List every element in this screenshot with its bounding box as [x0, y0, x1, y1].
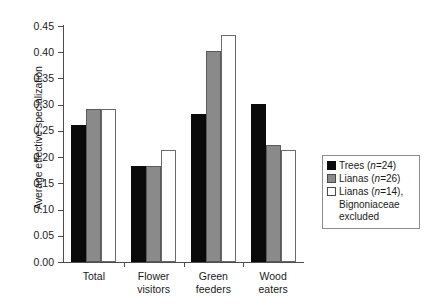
legend-label-lianas: Lianas (n=26) — [339, 173, 400, 185]
legend-swatch-lianas-excluded-icon — [327, 187, 336, 196]
legend-label-continuation-line-1: Bignoniaceae — [327, 199, 415, 211]
bar — [191, 114, 206, 262]
y-axis-line — [63, 25, 64, 263]
x-tick-mark — [124, 262, 125, 267]
x-tick-label-line: eaters — [228, 283, 318, 296]
legend-item-trees: Trees (n=24) — [327, 160, 415, 172]
legend-label-continuation-line-2: excluded — [327, 211, 415, 223]
y-tick-label: 0.40 — [14, 47, 54, 58]
y-tick-label: 0.25 — [14, 125, 54, 136]
x-tick-mark — [243, 262, 244, 267]
y-tick-label: 0.15 — [14, 178, 54, 189]
y-tick-mark — [58, 78, 63, 79]
y-tick-mark — [58, 52, 63, 53]
legend-item-lianas-excluded: Lianas (n=14), — [327, 186, 415, 198]
legend-label-lianas-excluded-suffix: =14), — [380, 186, 403, 197]
y-tick-label: 0.45 — [14, 21, 54, 32]
y-tick-label: 0.35 — [14, 73, 54, 84]
y-tick-label: 0.30 — [14, 99, 54, 110]
legend-label-lianas-excluded-prefix: Lianas ( — [339, 186, 375, 197]
bar — [146, 166, 161, 262]
legend-item-lianas: Lianas (n=26) — [327, 173, 415, 185]
legend-label-lianas-suffix: =26) — [380, 173, 400, 184]
y-axis-title: Average effective specialization — [32, 28, 44, 248]
y-tick-mark — [58, 236, 63, 237]
y-tick-mark — [58, 210, 63, 211]
legend-label-lianas-prefix: Lianas ( — [339, 173, 375, 184]
y-tick-mark — [58, 131, 63, 132]
legend-label-trees-prefix: Trees ( — [339, 160, 370, 171]
x-tick-label: Woodeaters — [228, 270, 318, 295]
y-tick-mark — [58, 183, 63, 184]
bar — [281, 150, 296, 262]
bar — [206, 51, 221, 262]
bar — [221, 35, 236, 262]
chart-figure: Average effective specialization 0.000.0… — [0, 0, 426, 308]
bar — [161, 150, 176, 262]
y-tick-mark — [58, 157, 63, 158]
y-tick-label: 0.20 — [14, 152, 54, 163]
bar — [131, 166, 146, 262]
x-tick-label-line: Wood — [228, 270, 318, 283]
bar — [86, 109, 101, 262]
legend: Trees (n=24) Lianas (n=26) Lianas (n=14)… — [322, 155, 420, 229]
legend-label-trees: Trees (n=24) — [339, 160, 396, 172]
x-tick-mark — [184, 262, 185, 267]
y-tick-label: 0.05 — [14, 230, 54, 241]
y-tick-mark — [58, 105, 63, 106]
y-tick-mark — [58, 262, 63, 263]
legend-label-lianas-excluded: Lianas (n=14), — [339, 186, 403, 198]
legend-label-trees-suffix: =24) — [376, 160, 396, 171]
y-tick-label: 0.10 — [14, 204, 54, 215]
legend-swatch-trees-icon — [327, 161, 336, 170]
y-tick-mark — [58, 26, 63, 27]
legend-swatch-lianas-icon — [327, 174, 336, 183]
y-tick-label: 0.00 — [14, 257, 54, 268]
bar — [251, 104, 266, 262]
bar — [71, 125, 86, 262]
bar — [266, 145, 281, 262]
bar — [101, 109, 116, 262]
